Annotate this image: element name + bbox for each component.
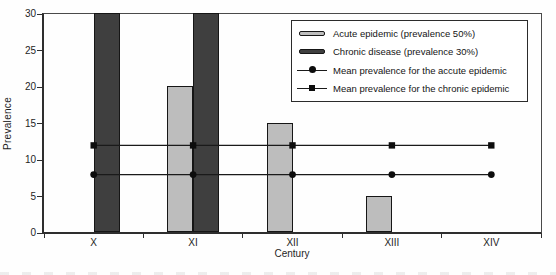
y-axis-tick-label: 10 xyxy=(0,154,36,166)
y-axis-tick-label: 25 xyxy=(0,45,36,57)
y-axis-tick-label: 20 xyxy=(0,81,36,93)
x-axis-title: Century xyxy=(42,248,542,259)
x-axis-tick xyxy=(242,234,243,238)
legend-label-chronic-mean: Mean prevalence for the chronic epidemic xyxy=(333,83,509,94)
legend-label-chronic-disease: Chronic disease (prevalence 30%) xyxy=(333,46,478,57)
y-axis-tick xyxy=(37,87,42,88)
bar-chronic-XI xyxy=(193,13,219,232)
y-axis-tick xyxy=(37,50,42,51)
y-axis-tick-label: 5 xyxy=(0,191,36,203)
x-axis-tick xyxy=(441,234,442,238)
legend-item-chronic-mean: Mean prevalence for the chronic epidemic xyxy=(297,80,525,97)
circle-marker-icon xyxy=(309,66,316,73)
legend-swatch-chronic-mean-line xyxy=(297,84,327,94)
y-axis-tick xyxy=(37,123,42,124)
chronic-bar-swatch-icon xyxy=(299,49,325,54)
x-axis-tick xyxy=(44,234,45,238)
y-axis-tick-label: 30 xyxy=(0,8,36,20)
circle-marker-icon xyxy=(488,171,495,178)
bar-chronic-X xyxy=(94,13,120,232)
legend-swatch-chronic-bar xyxy=(297,47,327,57)
circle-marker-icon xyxy=(389,171,396,178)
legend-box: Acute epidemic (prevalence 50%) Chronic … xyxy=(291,20,528,102)
legend-swatch-acute-mean-line xyxy=(297,65,327,75)
x-axis-tick xyxy=(541,234,542,238)
legend-item-chronic-disease: Chronic disease (prevalence 30%) xyxy=(297,43,525,60)
x-axis-tick xyxy=(143,234,144,238)
legend-label-acute-epidemic: Acute epidemic (prevalence 50%) xyxy=(333,28,475,39)
bar-acute-XII xyxy=(267,123,293,233)
bar-acute-XIII xyxy=(366,196,392,233)
square-marker-icon xyxy=(389,142,395,148)
y-axis-tick xyxy=(37,196,42,197)
legend-label-acute-mean: Mean prevalence for the accute epidemic xyxy=(333,65,507,76)
y-axis-tick xyxy=(37,233,42,234)
bar-acute-XI xyxy=(167,86,193,232)
square-marker-icon xyxy=(488,142,494,148)
y-axis-tick-label: 15 xyxy=(0,118,36,130)
y-axis-tick xyxy=(37,160,42,161)
legend-swatch-acute-bar xyxy=(297,28,327,38)
legend-item-acute-mean: Mean prevalence for the accute epidemic xyxy=(297,62,525,79)
chart-figure: Prevalence 051015202530XXIXIIXIIIXIV Cen… xyxy=(0,0,556,275)
y-axis-tick-label: 0 xyxy=(0,227,36,239)
acute-bar-swatch-icon xyxy=(299,31,325,36)
square-marker-icon xyxy=(309,85,315,91)
legend-item-acute-epidemic: Acute epidemic (prevalence 50%) xyxy=(297,25,525,42)
x-axis-tick xyxy=(342,234,343,238)
y-axis-tick xyxy=(37,14,42,15)
